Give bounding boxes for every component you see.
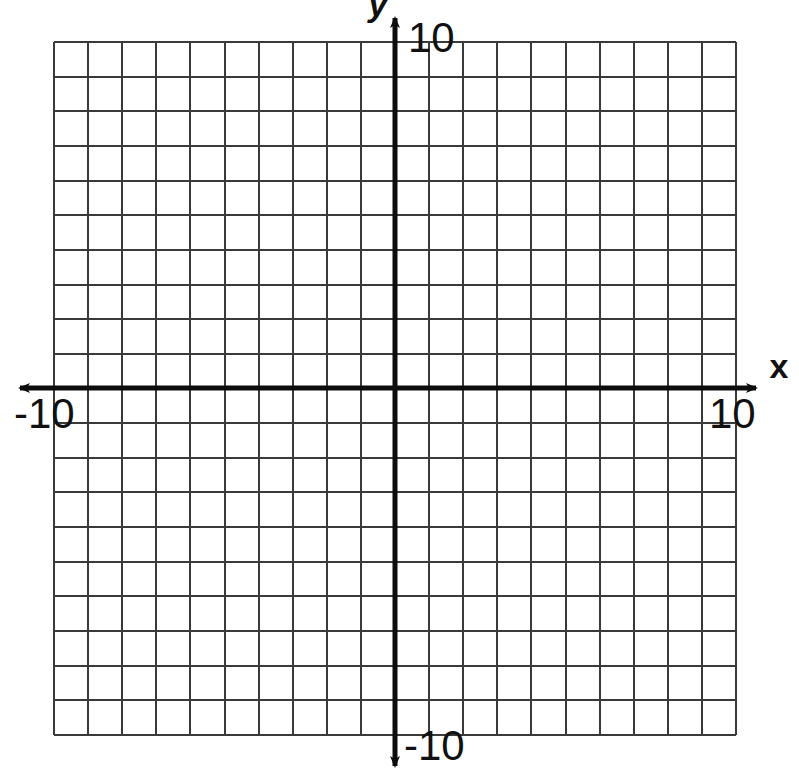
y-min-tick-label: -10 xyxy=(404,722,465,769)
x-min-tick-label: -10 xyxy=(14,390,75,437)
y-axis-name-label: y xyxy=(367,0,390,23)
graph-page: y x 10 -10 10 -10 xyxy=(0,0,799,781)
x-axis-name-label: x xyxy=(770,347,789,385)
y-max-tick-label: 10 xyxy=(408,14,455,61)
coordinate-plane: y x 10 -10 10 -10 xyxy=(0,0,799,781)
x-max-tick-label: 10 xyxy=(709,390,756,437)
